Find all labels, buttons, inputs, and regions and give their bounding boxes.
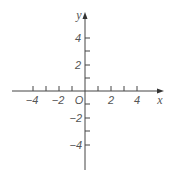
- y-tick-label-neg4: −4: [69, 139, 82, 151]
- y-tick-label-2: 2: [74, 59, 81, 71]
- origin-label: O: [75, 94, 84, 106]
- y-axis-label: y: [75, 8, 82, 22]
- coordinate-plane: −4 −2 O 2 4 4 2 −2 −4 x y: [0, 0, 170, 181]
- y-axis-arrow-icon: [83, 12, 88, 19]
- x-tick-label-4: 4: [134, 94, 140, 106]
- x-axis-label: x: [156, 93, 163, 107]
- y-tick-label-neg2: −2: [69, 112, 82, 124]
- y-tick-label-4: 4: [75, 32, 81, 44]
- x-tick-label-2: 2: [107, 94, 114, 106]
- x-tick-label-neg2: −2: [52, 94, 65, 106]
- x-tick-label-neg4: −4: [26, 94, 39, 106]
